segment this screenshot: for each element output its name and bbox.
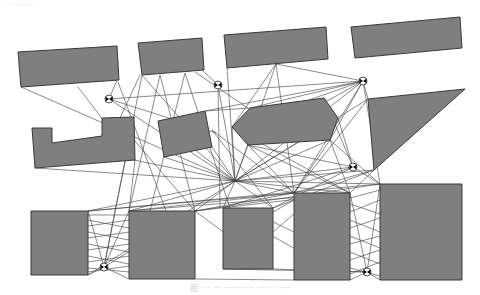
obstacles (18, 17, 465, 280)
obstacle-top-rect-3 (224, 27, 328, 68)
obstacle-triangle (368, 89, 465, 170)
graph-edge (129, 160, 135, 211)
obstacle-bottom-rect-3 (223, 208, 273, 269)
graph-edge (350, 236, 380, 248)
obstacle-top-rect-4 (351, 17, 462, 58)
graph-edge (350, 250, 380, 260)
waypoint-node-icon (105, 95, 113, 103)
graph-edge (350, 218, 380, 228)
graph-edge (367, 184, 380, 272)
graph-edge (338, 118, 353, 167)
graph-edge (195, 181, 235, 211)
obstacle-bottom-rect-5 (380, 184, 462, 280)
waypoint-node-icon (214, 81, 222, 89)
waypoint-node-icon (349, 163, 357, 171)
obstacle-bottom-rect-4 (294, 193, 350, 280)
obstacle-top-rect-1 (18, 46, 119, 87)
graph-edge (276, 64, 363, 81)
graph-edge (273, 222, 294, 232)
graph-edge (273, 214, 294, 232)
graph-edge (350, 200, 380, 212)
waypoint-node-icon (363, 268, 371, 276)
graph-edge (350, 220, 380, 232)
obstacle-hexagon (232, 98, 338, 145)
figure-caption: 图 · ·· ··· ········ ··· ···· ·· ····· (0, 282, 480, 293)
graph-edge (353, 167, 380, 184)
waypoint-node-icon (100, 263, 108, 271)
visibility-graph-figure (0, 0, 480, 295)
obstacle-bottom-rect-2 (129, 211, 195, 279)
waypoint-node-icon (359, 77, 367, 85)
obstacle-l-shape (32, 117, 135, 168)
obstacle-bottom-rect-1 (31, 211, 88, 275)
graph-edge (350, 236, 380, 244)
graph-edge (218, 85, 220, 208)
graph-edge (120, 75, 140, 118)
graph-edge (235, 167, 353, 181)
graph-edge (195, 279, 294, 280)
graph-edge (350, 190, 380, 198)
graph-edge (88, 181, 235, 211)
obstacle-small-quad (158, 111, 212, 157)
obstacle-top-rect-2 (138, 38, 204, 75)
